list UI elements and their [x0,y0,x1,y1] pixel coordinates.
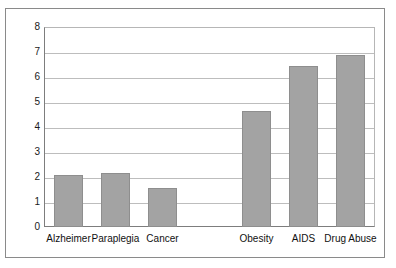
bars-group [45,28,374,227]
y-tick-label: 4 [18,122,40,132]
figure-frame: 012345678 AlzheimerParaplegiaCancerObesi… [5,8,385,258]
y-tick-label: 2 [18,172,40,182]
y-tick-label: 6 [18,72,40,82]
bar [54,175,82,227]
bar [289,66,317,227]
y-tick-label: 5 [18,97,40,107]
bar [242,111,270,227]
x-tick-label: Drug Abuse [306,233,395,245]
bar [336,55,364,228]
y-tick-label: 8 [18,22,40,32]
chart-screenshot: 012345678 AlzheimerParaplegiaCancerObesi… [0,0,396,268]
bar [101,173,129,227]
x-tick-label: Cancer [118,233,207,245]
x-axis-tick-labels: AlzheimerParaplegiaCancerObesityAIDSDrug… [45,233,374,249]
bar [148,188,176,227]
y-tick-label: 0 [18,222,40,232]
y-axis-tick-labels: 012345678 [16,27,40,227]
y-tick-label: 3 [18,147,40,157]
y-tick-label: 7 [18,47,40,57]
y-tick-label: 1 [18,197,40,207]
